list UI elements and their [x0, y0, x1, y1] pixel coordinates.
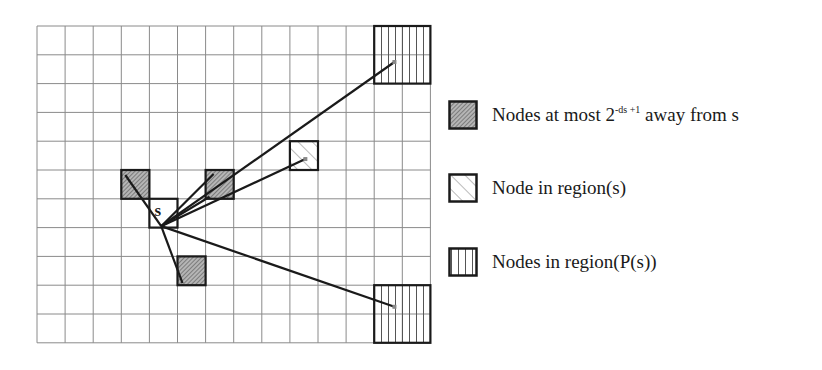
near-node [121, 170, 149, 199]
legend-item-region-ps: Nodes in region(P(s)) [448, 247, 657, 277]
edge-endpoint [392, 305, 396, 309]
legend-label-region-s: Node in region(s) [492, 177, 626, 199]
legend-label-near-nodes: Nodes at most 2-ds +1 away from s [492, 104, 739, 126]
region-ps-node [374, 26, 430, 84]
region-ps-node [374, 285, 430, 343]
node-layer [121, 26, 430, 343]
source-node-label: s [154, 201, 161, 220]
edge-line [161, 62, 394, 226]
legend-label-region-ps: Nodes in region(P(s)) [492, 251, 657, 273]
edge-layer [125, 60, 396, 309]
edge-endpoint [303, 157, 307, 161]
edge-line [161, 226, 182, 283]
edge-endpoint [392, 60, 396, 64]
sparse-hatch-swatch-icon [448, 173, 478, 203]
region-s-node [290, 141, 318, 170]
legend-item-near-nodes: Nodes at most 2-ds +1 away from s [448, 100, 739, 130]
vertical-hatch-swatch-icon [448, 247, 478, 277]
dense-hatch-swatch-icon [448, 100, 478, 130]
legend-item-region-s: Node in region(s) [448, 173, 626, 203]
grid-diagram: s [0, 0, 440, 370]
